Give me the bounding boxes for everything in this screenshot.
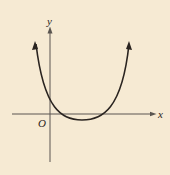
x-axis-label: x: [157, 108, 163, 120]
parabola-graph: y x O: [0, 0, 170, 175]
right-arrow-icon: [126, 41, 132, 50]
origin-label: O: [38, 117, 46, 129]
left-arrow-icon: [32, 41, 38, 50]
y-axis-label: y: [46, 15, 52, 27]
